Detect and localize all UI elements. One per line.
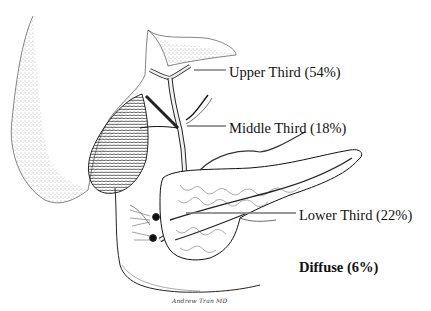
label-upper-third: Upper Third (54%): [229, 65, 341, 80]
ampulla: [130, 210, 159, 241]
artist-signature: Andrew Tran MD: [172, 297, 227, 304]
pancreas: [160, 132, 362, 260]
label-lower-third: Lower Third (22%): [299, 208, 412, 223]
label-middle-third: Middle Third (18%): [229, 121, 346, 136]
label-diffuse: Diffuse (6%): [299, 260, 378, 275]
